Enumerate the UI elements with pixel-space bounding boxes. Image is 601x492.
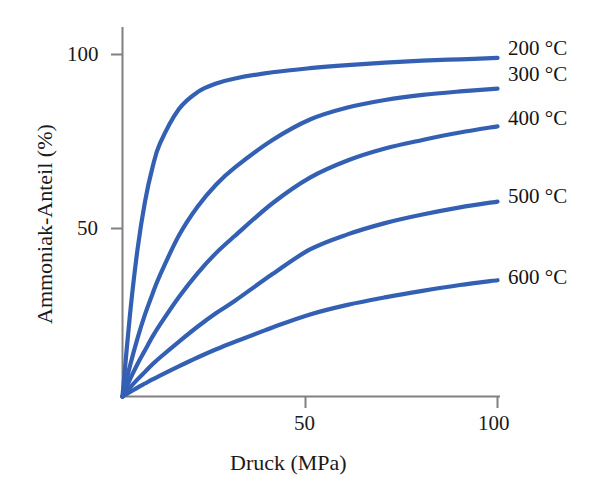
y-axis-title: Ammoniak-Anteil (%) [34, 124, 56, 324]
series-group [123, 58, 498, 397]
series-label-400c: 400 °C [508, 108, 567, 129]
x-axis-title: Druck (MPa) [230, 452, 347, 474]
series-label-300c: 300 °C [508, 64, 567, 85]
series-line-200c [123, 58, 498, 397]
y-tick-label-100: 100 [67, 44, 99, 65]
ammonia-yield-chart: 100 50 50 100 Ammoniak-Anteil (%) Druck … [0, 0, 601, 492]
y-tick-label-50: 50 [77, 218, 98, 239]
series-label-500c: 500 °C [508, 186, 567, 207]
x-tick-label-50: 50 [294, 413, 315, 434]
series-label-600c: 600 °C [508, 267, 567, 288]
x-tick-label-100: 100 [478, 413, 510, 434]
series-label-200c: 200 °C [508, 38, 567, 59]
series-line-400c [123, 126, 498, 396]
